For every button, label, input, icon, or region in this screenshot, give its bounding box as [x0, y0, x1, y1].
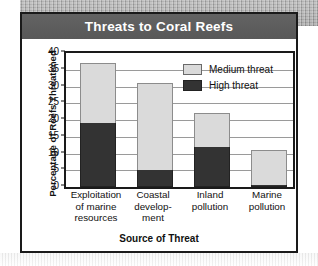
chart-title-band: Threats to Coral Reefs: [22, 14, 296, 39]
y-axis-tick-label: 15: [48, 129, 59, 140]
bar-segment-medium-threat: [137, 83, 173, 170]
bar-column: [137, 83, 173, 187]
x-axis-category-label: Marinepollution: [235, 189, 299, 212]
x-axis-title: Source of Threat: [22, 233, 296, 244]
y-axis-tick-label: 35: [48, 62, 59, 73]
legend-label-high-threat: High threat: [209, 80, 258, 91]
bar-segment-medium-threat: [251, 150, 287, 185]
bar-segment-high-threat: [80, 123, 116, 187]
legend-item-high-threat: High threat: [183, 80, 273, 91]
bar-segment-high-threat: [194, 147, 230, 187]
y-axis-tick-label: 10: [48, 146, 59, 157]
y-axis-tick-label: 25: [48, 96, 59, 107]
chart-legend: Medium threat High threat: [183, 64, 273, 96]
bar-segment-high-threat: [137, 170, 173, 187]
plot-area: Medium threat High threat: [64, 51, 295, 189]
y-axis-tick-label: 0: [53, 180, 59, 191]
x-axis-category-labels: Exploitationof marineresourcesCoastaldev…: [64, 189, 295, 233]
page-top-texture-left-gap: [0, 0, 20, 26]
y-axis-tick-label: 5: [53, 163, 59, 174]
bar-segment-medium-threat: [194, 113, 230, 147]
y-axis-tick-label: 20: [48, 113, 59, 124]
legend-label-medium-threat: Medium threat: [209, 64, 273, 75]
x-axis-category-label: Coastaldevelop-ment: [121, 189, 185, 224]
bar-column: [80, 63, 116, 187]
page-bottom-texture-band: [0, 253, 318, 266]
legend-swatch-high-threat-icon: [183, 80, 202, 91]
y-axis-tick-label: 30: [48, 79, 59, 90]
legend-item-medium-threat: Medium threat: [183, 64, 273, 75]
x-axis-category-label: Exploitationof marineresources: [64, 189, 128, 224]
bar-column: [194, 113, 230, 187]
y-axis-tick-label: 40: [48, 46, 59, 57]
legend-swatch-medium-threat-icon: [183, 64, 202, 75]
x-axis-category-label: Inlandpollution: [178, 189, 242, 212]
y-axis-tick-labels: 0510152025303540: [38, 44, 62, 192]
chart-title: Threats to Coral Reefs: [85, 19, 233, 34]
bar-segment-high-threat: [251, 185, 287, 187]
bar-segment-medium-threat: [80, 63, 116, 123]
bar-column: [251, 150, 287, 187]
